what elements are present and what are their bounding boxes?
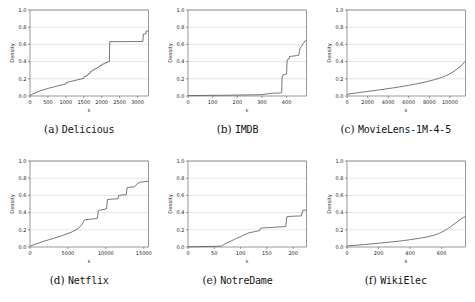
x-tick-label: 0 [28,99,31,105]
y-axis-title: Density [9,194,16,213]
x-tick-label: 150 [262,250,272,256]
y-tick-label: 0.8 [177,175,185,181]
x-tick-label: 0 [187,250,190,256]
y-tick-label: 0.2 [19,76,27,82]
y-tick-label: 0.6 [335,192,343,198]
plot-area-a: 0.00.20.40.60.81.00500100015002000250030… [0,0,158,122]
y-tick-label: 1.0 [19,158,27,164]
caption-dataset-name: Delicious [62,124,114,135]
chart-e: 0.00.20.40.60.81.0050100150200Densityk [158,151,316,273]
caption-c: (c) MovieLens-1M-4-5 [317,123,475,135]
y-tick-label: 0.0 [177,93,185,99]
y-tick-label: 0.2 [335,227,343,233]
figure-row-top: 0.00.20.40.60.81.00500100015002000250030… [0,0,475,151]
caption-d: (d) Netflix [0,274,158,286]
caption-dataset-name: NotreDame [220,275,272,286]
y-axis-title: Density [326,194,333,213]
chart-f: 0.00.20.40.60.81.00200400600Densityk [317,151,475,273]
panel-e-notredame: 0.00.20.40.60.81.0050100150200Densityk (… [158,151,316,302]
caption-dataset-name: Netflix [68,275,109,286]
caption-index: (d) [50,274,68,286]
x-tick-label: 1500 [77,99,90,105]
y-tick-label: 1.0 [335,7,343,13]
panel-c-movielens: 0.00.20.40.60.81.00200040006000800010000… [317,0,475,151]
x-tick-label: 15000 [136,250,152,256]
y-tick-label: 1.0 [177,158,185,164]
x-tick-label: 4000 [381,99,394,105]
chart-a: 0.00.20.40.60.81.00500100015002000250030… [0,0,158,122]
x-tick-label: 300 [257,99,267,105]
y-tick-label: 0.0 [19,244,27,250]
panel-b-imdb: 0.00.20.40.60.81.00100200300400Densityk … [158,0,316,151]
y-axis-title: Density [9,43,16,62]
x-tick-label: 200 [373,250,383,256]
x-tick-label: 10000 [442,99,458,105]
y-tick-label: 0.8 [335,24,343,30]
x-tick-label: 5000 [62,250,75,256]
chart-d: 0.00.20.40.60.81.0050001000015000Density… [0,151,158,273]
caption-dataset-name: MovieLens-1M-4-5 [358,124,451,135]
caption-dataset-name: IMDB [235,124,258,135]
figure-density-plots: 0.00.20.40.60.81.00500100015002000250030… [0,0,475,302]
x-tick-label: 400 [405,250,415,256]
x-axis-title: k [404,108,407,113]
y-tick-label: 0.0 [177,244,185,250]
y-tick-label: 0.8 [335,175,343,181]
caption-index: (a) [44,123,62,135]
caption-dataset-name: WikiElec [380,275,427,286]
y-tick-label: 1.0 [19,7,27,13]
x-tick-label: 200 [233,99,243,105]
caption-index: (f) [365,274,380,286]
y-tick-label: 0.4 [19,209,27,215]
y-tick-label: 0.8 [19,175,27,181]
x-tick-label: 100 [208,99,218,105]
y-tick-label: 1.0 [335,158,343,164]
y-tick-label: 0.6 [177,192,185,198]
y-tick-label: 0.0 [335,244,343,250]
x-axis-title: k [88,259,91,264]
x-tick-label: 10000 [98,250,114,256]
data-series-line [347,61,465,94]
x-tick-label: 8000 [423,99,436,105]
y-tick-label: 0.2 [177,227,185,233]
x-tick-label: 0 [345,250,348,256]
y-tick-label: 0.4 [19,58,27,64]
x-tick-label: 400 [282,99,292,105]
plot-frame [188,161,306,247]
x-tick-label: 2000 [361,99,374,105]
plot-area-d: 0.00.20.40.60.81.0050001000015000Density… [0,151,158,273]
panel-f-wikielec: 0.00.20.40.60.81.00200400600Densityk (f)… [317,151,475,302]
y-tick-label: 0.4 [177,209,185,215]
x-tick-label: 0 [187,99,190,105]
x-tick-label: 200 [289,250,299,256]
x-tick-label: 100 [236,250,246,256]
y-tick-label: 0.0 [19,93,27,99]
plot-frame [30,10,148,96]
caption-index: (e) [202,274,220,286]
plot-frame [347,10,465,96]
data-series-line [347,217,465,246]
y-tick-label: 0.8 [19,24,27,30]
caption-a: (a) Delicious [0,123,158,135]
x-tick-label: 600 [436,250,446,256]
plot-area-e: 0.00.20.40.60.81.0050100150200Densityk [158,151,316,273]
x-axis-title: k [246,108,249,113]
figure-row-bottom: 0.00.20.40.60.81.0050001000015000Density… [0,151,475,302]
plot-frame [347,161,465,247]
y-tick-label: 0.4 [177,58,185,64]
plot-area-f: 0.00.20.40.60.81.00200400600Densityk [317,151,475,273]
x-axis-title: k [246,259,249,264]
y-tick-label: 1.0 [177,7,185,13]
plot-frame [188,10,306,96]
x-tick-label: 6000 [402,99,415,105]
y-tick-label: 0.6 [177,41,185,47]
x-tick-label: 500 [43,99,53,105]
x-axis-title: k [88,108,91,113]
panel-d-netflix: 0.00.20.40.60.81.0050001000015000Density… [0,151,158,302]
y-tick-label: 0.2 [335,76,343,82]
x-tick-label: 2000 [95,99,108,105]
y-tick-label: 0.8 [177,24,185,30]
y-axis-title: Density [326,43,333,62]
y-tick-label: 0.6 [19,41,27,47]
y-tick-label: 0.6 [19,192,27,198]
